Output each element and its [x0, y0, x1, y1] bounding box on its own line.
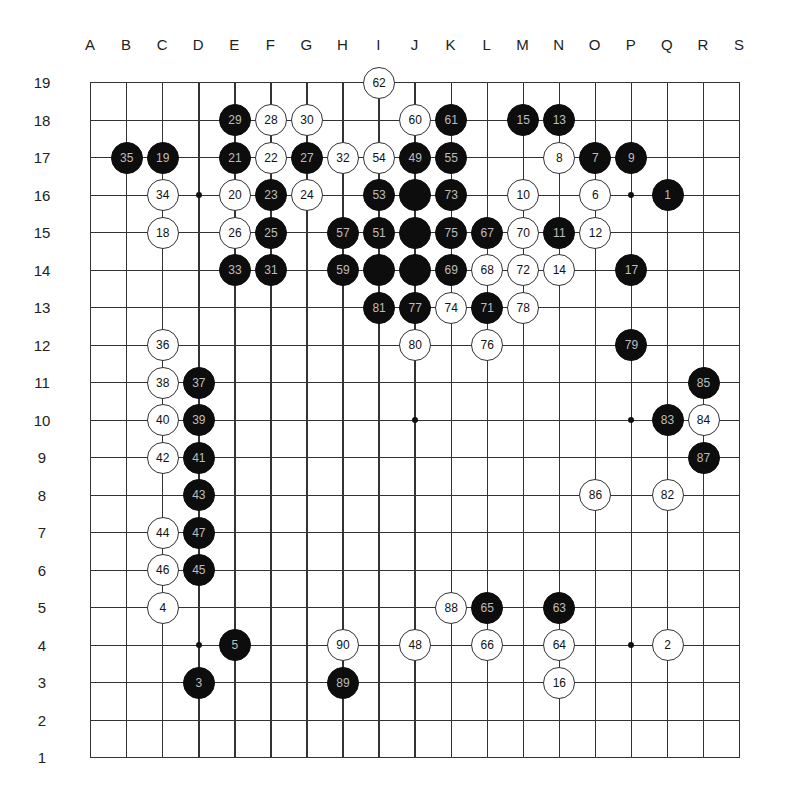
- white-stone: 36: [147, 329, 179, 361]
- white-stone: 8: [543, 142, 575, 174]
- white-stone: 70: [507, 217, 539, 249]
- black-stone: 45: [183, 554, 215, 586]
- black-stone: 33: [219, 254, 251, 286]
- white-stone: 28: [255, 104, 287, 136]
- column-label: D: [193, 36, 204, 53]
- black-stone: 21: [219, 142, 251, 174]
- row-label: 2: [38, 711, 46, 728]
- white-stone: 22: [255, 142, 287, 174]
- white-stone: 26: [219, 217, 251, 249]
- black-stone: 57: [327, 217, 359, 249]
- white-stone: 38: [147, 367, 179, 399]
- black-stone: 75: [435, 217, 467, 249]
- white-stone: 84: [688, 404, 720, 436]
- row-label: 8: [38, 486, 46, 503]
- white-stone: 10: [507, 179, 539, 211]
- white-stone: 40: [147, 404, 179, 436]
- column-label: M: [516, 36, 529, 53]
- black-stone: [363, 254, 395, 286]
- column-label: K: [445, 36, 455, 53]
- black-stone: [399, 254, 431, 286]
- white-stone: 34: [147, 179, 179, 211]
- black-stone: 87: [688, 442, 720, 474]
- column-label: R: [697, 36, 708, 53]
- black-stone: 63: [543, 592, 575, 624]
- black-stone: 7: [579, 142, 611, 174]
- black-stone: 51: [363, 217, 395, 249]
- white-stone: 44: [147, 517, 179, 549]
- column-label: B: [121, 36, 131, 53]
- column-label: Q: [661, 36, 673, 53]
- white-stone: 54: [363, 142, 395, 174]
- white-stone: 18: [147, 217, 179, 249]
- black-stone: 85: [688, 367, 720, 399]
- go-board-diagram: ABCDEFGHIJKLMNOPQRS191817161514131211109…: [0, 0, 786, 800]
- row-label: 7: [38, 524, 46, 541]
- star-point: [412, 417, 418, 423]
- column-label: G: [300, 36, 312, 53]
- black-stone: 39: [183, 404, 215, 436]
- grid-line-horizontal: [90, 720, 740, 721]
- white-stone: 2: [652, 629, 684, 661]
- white-stone: 74: [435, 292, 467, 324]
- white-stone: 30: [291, 104, 323, 136]
- column-label: L: [482, 36, 490, 53]
- row-label: 11: [34, 374, 50, 391]
- black-stone: 67: [471, 217, 503, 249]
- row-label: 17: [34, 149, 51, 166]
- black-stone: 3: [183, 667, 215, 699]
- row-label: 10: [34, 411, 51, 428]
- white-stone: 46: [147, 554, 179, 586]
- column-label: S: [734, 36, 744, 53]
- row-label: 18: [34, 111, 51, 128]
- black-stone: 37: [183, 367, 215, 399]
- column-label: I: [376, 36, 380, 53]
- grid-line-horizontal: [90, 757, 740, 758]
- white-stone: 90: [327, 629, 359, 661]
- white-stone: 66: [471, 629, 503, 661]
- star-point: [196, 192, 202, 198]
- black-stone: 9: [615, 142, 647, 174]
- white-stone: 12: [579, 217, 611, 249]
- black-stone: 17: [615, 254, 647, 286]
- row-label: 16: [34, 186, 51, 203]
- white-stone: 80: [399, 329, 431, 361]
- white-stone: 88: [435, 592, 467, 624]
- black-stone: 23: [255, 179, 287, 211]
- row-label: 19: [34, 74, 51, 91]
- column-label: J: [411, 36, 419, 53]
- black-stone: [399, 179, 431, 211]
- black-stone: 53: [363, 179, 395, 211]
- white-stone: 16: [543, 667, 575, 699]
- black-stone: 41: [183, 442, 215, 474]
- row-label: 4: [38, 636, 46, 653]
- white-stone: 14: [543, 254, 575, 286]
- column-label: O: [589, 36, 601, 53]
- grid-line-horizontal: [90, 607, 740, 608]
- black-stone: 69: [435, 254, 467, 286]
- black-stone: 59: [327, 254, 359, 286]
- white-stone: 32: [327, 142, 359, 174]
- row-label: 1: [38, 749, 46, 766]
- black-stone: 77: [399, 292, 431, 324]
- column-label: E: [229, 36, 239, 53]
- white-stone: 62: [363, 67, 395, 99]
- white-stone: 86: [579, 479, 611, 511]
- black-stone: 35: [111, 142, 143, 174]
- black-stone: 81: [363, 292, 395, 324]
- column-label: C: [157, 36, 168, 53]
- row-label: 6: [38, 561, 46, 578]
- white-stone: 24: [291, 179, 323, 211]
- white-stone: 68: [471, 254, 503, 286]
- star-point: [628, 642, 634, 648]
- column-label: N: [553, 36, 564, 53]
- row-label: 9: [38, 449, 46, 466]
- white-stone: 60: [399, 104, 431, 136]
- black-stone: 43: [183, 479, 215, 511]
- black-stone: 25: [255, 217, 287, 249]
- grid-line-vertical: [739, 82, 740, 758]
- row-label: 14: [34, 261, 51, 278]
- black-stone: 13: [543, 104, 575, 136]
- black-stone: 11: [543, 217, 575, 249]
- black-stone: 61: [435, 104, 467, 136]
